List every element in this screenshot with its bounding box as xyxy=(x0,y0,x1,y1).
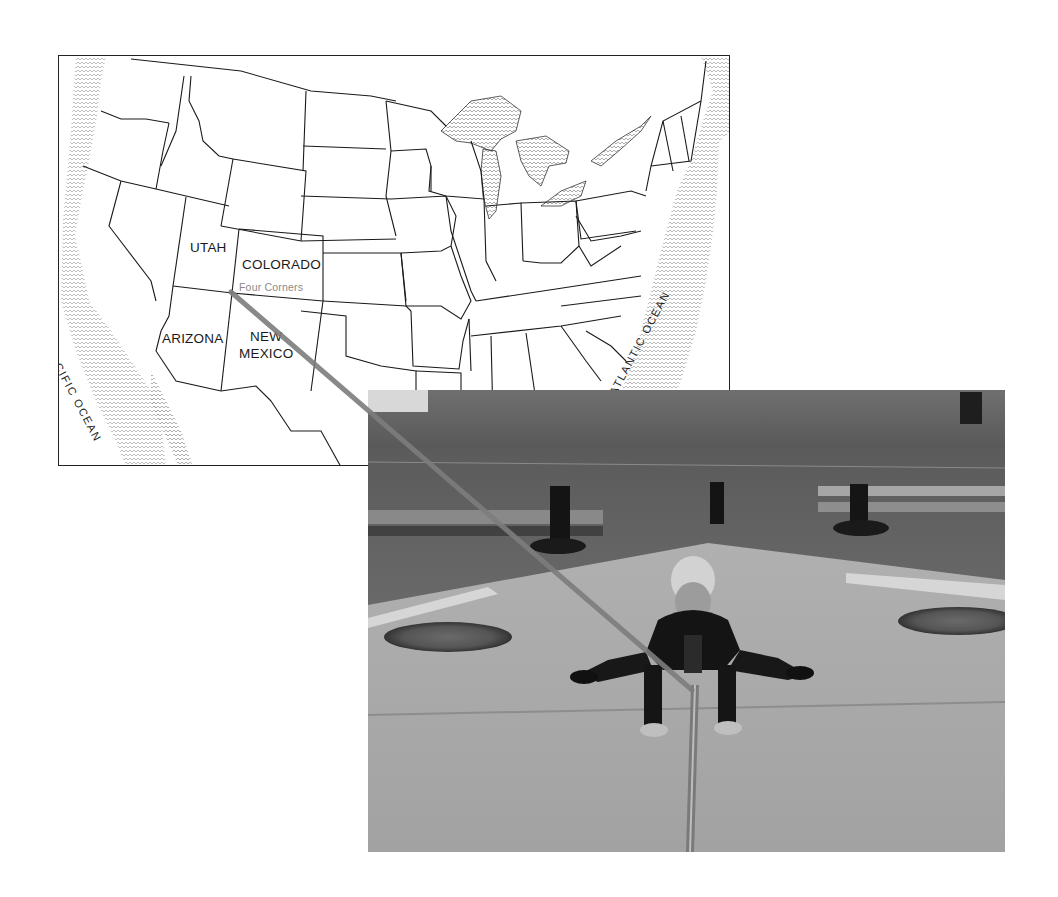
four-corners-photo xyxy=(368,390,1005,852)
label-new-mexico-line1: NEW xyxy=(250,329,282,345)
label-new-mexico-line2: MEXICO xyxy=(239,346,293,362)
label-utah: UTAH xyxy=(190,240,227,256)
label-colorado: COLORADO xyxy=(242,257,321,273)
photo-scene xyxy=(368,390,1005,852)
label-four-corners: Four Corners xyxy=(239,281,303,293)
label-arizona: ARIZONA xyxy=(162,331,223,347)
